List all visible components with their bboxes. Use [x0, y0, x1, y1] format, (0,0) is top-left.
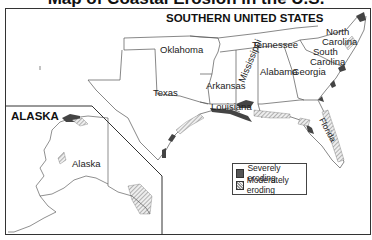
alaska-inset-border	[5, 106, 162, 235]
alaska-inset-title: ALASKA	[11, 110, 59, 122]
alaska-label: Alaska	[72, 158, 101, 169]
legend-label-moderate: Moderately eroding	[247, 175, 306, 195]
legend-item-moderate: Moderately eroding	[236, 180, 306, 190]
moderate-swatch-icon	[236, 181, 244, 190]
state-label-louisiana: Louisiana	[211, 101, 252, 112]
alaska-outline	[8, 116, 150, 232]
severe-swatch-icon	[236, 169, 244, 178]
state-borders	[40, 16, 366, 168]
state-label-oklahoma: Oklahoma	[160, 44, 203, 55]
state-label-georgia: Georgia	[292, 66, 326, 77]
main-map-title: SOUTHERN UNITED STATES	[166, 12, 323, 24]
state-label-texas: Texas	[153, 87, 178, 98]
legend: Severely eroding Moderately eroding	[232, 163, 307, 195]
